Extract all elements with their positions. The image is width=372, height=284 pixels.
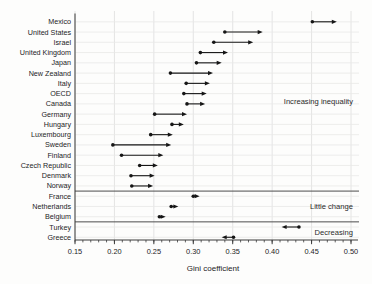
data-rows-layer: MexicoUnited StatesIsraelUnited KingdomJ… [20, 17, 337, 241]
change-arrowhead [179, 122, 184, 126]
start-value-dot [169, 71, 173, 75]
start-value-dot [182, 92, 186, 96]
row-label-oecd: OECD [50, 89, 71, 98]
change-arrowhead [258, 30, 263, 34]
row-marker-denmark [129, 174, 154, 178]
start-value-dot [149, 133, 153, 137]
start-value-dot [129, 174, 133, 178]
x-axis-tick-label: 0.50 [344, 247, 358, 256]
row-label-japan: Japan [51, 58, 71, 67]
row-marker-new-zealand [169, 71, 213, 75]
start-value-dot [138, 164, 142, 168]
row-label-israel: Israel [53, 38, 71, 47]
row-label-new-zealand: New Zealand [29, 69, 71, 78]
start-value-dot [130, 184, 134, 188]
start-value-dot [153, 112, 157, 116]
start-value-dot [170, 123, 174, 127]
change-arrowhead [202, 92, 207, 96]
x-axis-tick-label: 0.30 [186, 247, 200, 256]
gini-change-figure: 0.150.200.250.300.350.400.450.50 MexicoU… [0, 0, 372, 284]
x-axis-tick-label: 0.15 [68, 247, 82, 256]
annotation-increasing-inequality: Increasing inequality [284, 97, 353, 106]
x-axis-tick-label: 0.35 [226, 247, 240, 256]
row-marker-germany [153, 112, 187, 116]
row-label-germany: Germany [41, 110, 71, 119]
row-label-turkey: Turkey [49, 223, 71, 232]
x-axis-tick-label: 0.20 [107, 247, 121, 256]
start-value-dot [232, 235, 236, 239]
row-marker-belgium [158, 215, 166, 219]
start-value-dot [169, 205, 173, 209]
change-arrowhead [332, 20, 337, 24]
annotation-decreasing: Decreasing [315, 228, 353, 237]
row-label-sweden: Sweden [45, 140, 71, 149]
row-label-greece: Greece [47, 233, 71, 242]
start-value-dot [195, 61, 199, 65]
row-marker-netherlands [169, 204, 178, 208]
row-label-finland: Finland [47, 151, 71, 160]
row-label-united-kingdom: United Kingdom [20, 48, 71, 57]
x-axis-tick-label: 0.40 [265, 247, 279, 256]
change-arrowhead [168, 133, 173, 137]
row-label-canada: Canada [46, 99, 71, 108]
change-arrowhead [153, 163, 158, 167]
change-arrowhead [248, 40, 253, 44]
row-label-italy: Italy [58, 79, 72, 88]
start-value-dot [158, 215, 162, 219]
row-marker-canada [185, 102, 205, 106]
change-arrowhead [173, 204, 178, 208]
annotations-layer: Increasing inequalityLittle changeDecrea… [284, 97, 353, 238]
row-marker-turkey [282, 225, 301, 229]
row-label-mexico: Mexico [48, 17, 71, 26]
row-label-czech-republic: Czech Republic [21, 161, 72, 170]
change-arrowhead [222, 235, 227, 239]
row-marker-sweden [111, 143, 171, 147]
change-arrowhead [223, 50, 228, 54]
start-value-dot [184, 82, 188, 86]
row-marker-czech-republic [138, 163, 158, 167]
start-value-dot [223, 30, 227, 34]
row-marker-hungary [170, 122, 184, 126]
change-arrowhead [217, 61, 222, 65]
change-arrowhead [182, 112, 187, 116]
row-label-united-states: United States [28, 28, 72, 37]
row-marker-norway [130, 184, 153, 188]
row-marker-mexico [311, 20, 337, 24]
start-value-dot [311, 20, 315, 24]
row-label-norway: Norway [47, 181, 72, 190]
start-value-dot [191, 194, 195, 198]
change-arrowhead [166, 143, 171, 147]
row-label-belgium: Belgium [45, 212, 71, 221]
change-arrowhead [282, 225, 287, 229]
change-arrowhead [208, 71, 213, 75]
x-axis-tick-label: 0.25 [147, 247, 161, 256]
row-marker-united-kingdom [199, 50, 228, 54]
change-arrowhead [200, 102, 205, 106]
change-arrowhead [205, 81, 210, 85]
row-label-denmark: Denmark [42, 171, 72, 180]
row-label-hungary: Hungary [44, 120, 72, 129]
start-value-dot [297, 225, 301, 229]
gini-chart-svg: 0.150.200.250.300.350.400.450.50 MexicoU… [0, 0, 372, 284]
x-axis-tick-label: 0.45 [304, 247, 318, 256]
start-value-dot [212, 41, 216, 45]
change-arrowhead [148, 184, 153, 188]
start-value-dot [185, 102, 189, 106]
row-marker-oecd [182, 92, 207, 96]
annotation-little-change: Little change [310, 202, 353, 211]
row-marker-france [191, 194, 199, 198]
row-marker-japan [195, 61, 222, 65]
row-label-france: France [49, 192, 71, 201]
row-label-luxembourg: Luxembourg [31, 130, 71, 139]
row-marker-greece [222, 235, 236, 239]
change-arrowhead [195, 194, 200, 198]
change-arrowhead [158, 153, 163, 157]
start-value-dot [120, 153, 124, 157]
start-value-dot [199, 51, 203, 55]
x-axis-title: Gini coefficient [187, 264, 240, 273]
row-marker-luxembourg [149, 133, 173, 137]
row-marker-united-states [223, 30, 263, 34]
row-marker-italy [184, 81, 209, 85]
change-arrowhead [161, 215, 166, 219]
start-value-dot [111, 143, 115, 147]
